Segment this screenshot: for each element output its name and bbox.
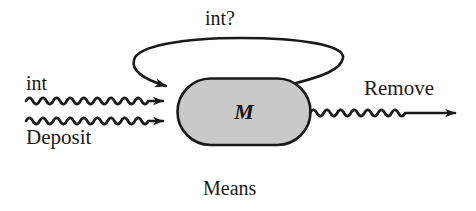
input-arrow-deposit (26, 118, 163, 124)
input-label-deposit: Deposit (26, 127, 91, 148)
feedback-label-int-question: int? (205, 8, 235, 28)
figure-means: int? int Deposit Remove M Means (0, 0, 476, 211)
means-box-label: M (177, 78, 311, 145)
figure-caption: Means (203, 178, 256, 198)
input-arrow-int (26, 98, 163, 104)
output-arrow-remove (310, 110, 455, 116)
output-label-remove: Remove (364, 78, 434, 99)
input-label-int: int (26, 73, 47, 93)
